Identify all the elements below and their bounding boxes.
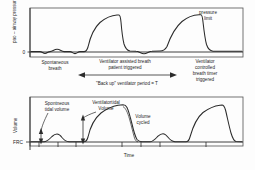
pressure-zero-label: 0	[23, 50, 26, 55]
pressure-limit-label-line2: limit	[204, 16, 213, 21]
volume-cycled-label-line2: cycled	[136, 120, 149, 125]
frc-label: FRC	[13, 140, 23, 145]
ventilator-waveform-figure: pao – airway pressure 0 pressure limit S…	[0, 0, 255, 170]
time-axis-label: Time	[124, 153, 135, 158]
controlled-breath-label-line2: controlled	[195, 65, 215, 70]
backup-period-arrow	[78, 72, 177, 78]
volume-y-axis-label: Volume	[13, 117, 18, 133]
vent-tidal-volume-label-line2: Volume	[98, 106, 114, 111]
spont-tidal-volume-label-line1: Spontneous	[45, 101, 70, 106]
controlled-breath-label-line1: Ventilator	[195, 59, 215, 64]
vent-tidal-volume-label-line1: Ventilatortidal	[92, 100, 120, 105]
pressure-limit-label-line1: pressure	[199, 10, 217, 15]
assisted-breath-label-line2: patient triggered	[108, 65, 142, 70]
spontaneous-breath-label-line1: Spontaneous	[41, 60, 69, 65]
pressure-y-axis-label: pao – airway pressure	[12, 0, 17, 43]
assisted-breath-label-line1: Ventilator assisted breath	[99, 59, 151, 64]
spont-tidal-volume-label-line2: tidal volume	[45, 107, 70, 112]
controlled-breath-label-line4: triggered	[196, 77, 215, 82]
controlled-breath-label-line3: breath timer	[193, 71, 218, 76]
volume-cycled-label-line1: Volume	[135, 114, 151, 119]
vent-tidal-volume-measure-arrow	[81, 115, 85, 145]
spont-tidal-volume-leader	[41, 113, 48, 131]
figure-container: pao – airway pressure 0 pressure limit S…	[0, 0, 255, 170]
spontaneous-breath-label-line2: breath	[48, 66, 61, 71]
backup-period-label: "Back up" ventilator period = T	[96, 81, 158, 86]
vent-tidal-volume-leader	[83, 112, 96, 118]
